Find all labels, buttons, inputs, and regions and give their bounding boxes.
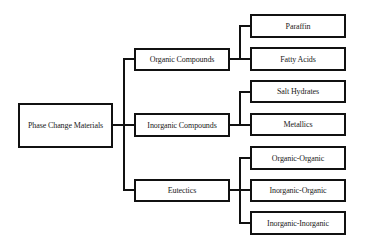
- connector-to-organic: [123, 58, 134, 60]
- connector-inorganic-vertical: [239, 91, 241, 126]
- node-label: Eutectics: [168, 186, 196, 195]
- node-label: Inorganic Compounds: [147, 121, 216, 130]
- pcm-classification-diagram: Phase Change Materials Organic Compounds…: [0, 0, 365, 244]
- node-inorganic-organic: Inorganic-Organic: [250, 179, 346, 202]
- connector-to-inorganic-inorganic: [239, 222, 250, 224]
- connector-to-inorganic-organic: [239, 189, 250, 191]
- node-inorganic-inorganic: Inorganic-Inorganic: [250, 211, 346, 235]
- connector-to-organic-organic: [239, 157, 250, 159]
- node-metallics: Metallics: [250, 113, 346, 136]
- connector-to-metallics: [239, 124, 250, 126]
- node-salt-hydrates: Salt Hydrates: [250, 80, 346, 103]
- node-label: Phase Change Materials: [28, 121, 103, 130]
- node-fatty-acids: Fatty Acids: [250, 47, 346, 71]
- node-label: Metallics: [284, 120, 313, 129]
- connector-to-salt-hydrates: [239, 91, 250, 93]
- connector-to-fatty-acids: [239, 58, 250, 60]
- node-organic-organic: Organic-Organic: [250, 146, 346, 170]
- node-label: Fatty Acids: [280, 55, 316, 64]
- connector-to-paraffin: [239, 25, 250, 27]
- node-eutectics: Eutectics: [134, 179, 230, 202]
- node-label: Organic Compounds: [150, 55, 215, 64]
- node-organic-compounds: Organic Compounds: [134, 48, 230, 71]
- node-phase-change-materials: Phase Change Materials: [18, 103, 113, 148]
- node-label: Salt Hydrates: [277, 87, 319, 96]
- node-label: Paraffin: [286, 22, 311, 31]
- node-label: Inorganic-Organic: [269, 186, 326, 195]
- connector-organic-vertical: [239, 25, 241, 60]
- node-inorganic-compounds: Inorganic Compounds: [134, 113, 230, 137]
- node-label: Inorganic-Inorganic: [267, 219, 329, 228]
- node-label: Organic-Organic: [272, 154, 324, 163]
- node-paraffin: Paraffin: [250, 14, 346, 38]
- connector-to-eutectics: [123, 189, 134, 191]
- connector-to-inorganic: [123, 124, 134, 126]
